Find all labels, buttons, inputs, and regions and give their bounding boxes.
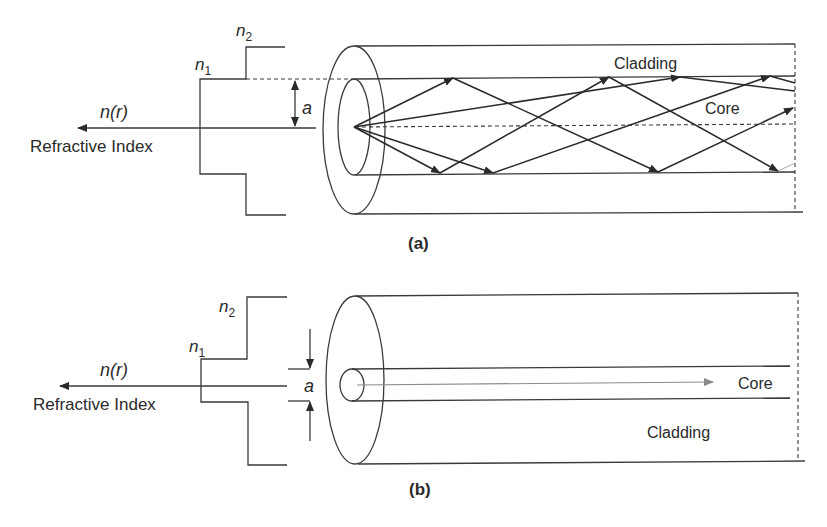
refractive-index-label-b: Refractive Index: [33, 395, 156, 414]
core-label-b: Core: [738, 375, 773, 392]
radius-label: a: [302, 98, 312, 118]
refractive-index-label: Refractive Index: [30, 137, 153, 156]
figure-b: n2 n1 a n(r) Refractive Index Core Cladd…: [33, 293, 805, 499]
n-of-r-label-b: n(r): [100, 360, 128, 380]
cladding-end-face-b: [326, 296, 384, 464]
cladding-end-face: [323, 46, 385, 214]
radius-label-b: a: [304, 376, 314, 396]
fiber-diagram: n2 n1 a n(r) Refractive Index: [0, 0, 827, 527]
n1-label: n1: [195, 55, 211, 78]
n2-label-b: n2: [219, 297, 235, 320]
fiber-b: [326, 293, 805, 464]
core-label-a: Core: [705, 100, 740, 117]
cladding-label-b: Cladding: [647, 424, 710, 441]
caption-b: (b): [409, 480, 431, 499]
figure-a: n2 n1 a n(r) Refractive Index: [30, 21, 803, 253]
caption-a: (a): [408, 234, 429, 253]
n1-label-b: n1: [189, 337, 205, 360]
n2-label: n2: [236, 21, 252, 44]
index-profile-a: [78, 47, 355, 215]
light-ray-b: [357, 382, 713, 385]
n-of-r-label: n(r): [100, 102, 128, 122]
cladding-label-a: Cladding: [614, 55, 677, 72]
index-profile-b: [60, 297, 310, 465]
